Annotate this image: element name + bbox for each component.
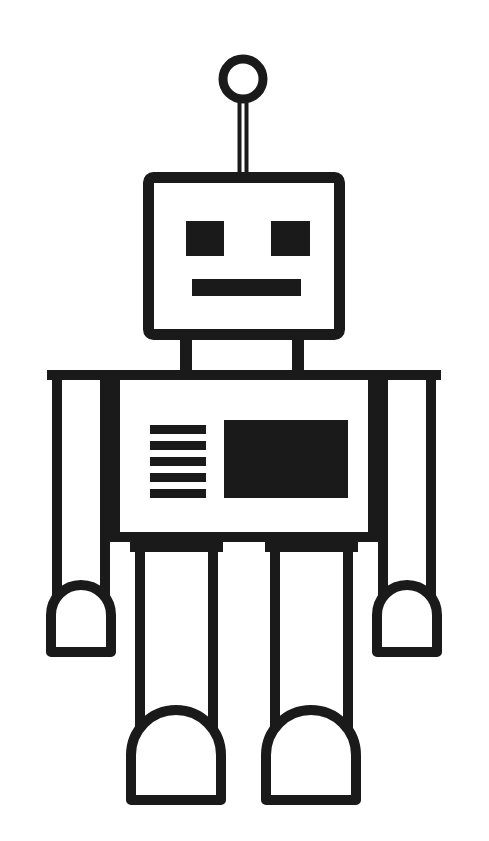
foot-right [266, 710, 356, 800]
robot-illustration [0, 0, 489, 841]
eye-right [271, 221, 310, 256]
head [149, 178, 340, 335]
torso [115, 375, 373, 537]
chest-stripe [150, 425, 206, 434]
eye-left [186, 221, 224, 256]
chest-stripe [150, 489, 206, 498]
mouth [192, 279, 301, 296]
chest-stripe [150, 441, 206, 450]
artboard: Robot [0, 0, 489, 841]
hand-left [51, 585, 111, 652]
antenna-stem-gap [242, 103, 245, 173]
antenna-ring-icon [223, 59, 263, 99]
chest-stripe [150, 473, 206, 482]
chest-screen [224, 420, 348, 498]
neck-strut-left [180, 334, 192, 376]
neck-strut-right [292, 334, 304, 376]
head-box [149, 178, 340, 335]
foot-left [131, 710, 221, 800]
hand-right [377, 585, 437, 652]
chest-stripe [150, 457, 206, 466]
